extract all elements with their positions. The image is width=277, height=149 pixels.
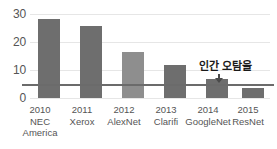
human-error-annotation-label: 인간 오탐율 bbox=[199, 61, 252, 72]
x-axis-label-2015-line2: ResNet bbox=[222, 116, 274, 128]
x-axis-label-2015: 2015 ResNet bbox=[222, 104, 274, 127]
gridline-20 bbox=[30, 42, 270, 43]
bar-2015-resnet bbox=[242, 88, 264, 98]
bar-2013-clarifi bbox=[164, 65, 186, 98]
bar-2011-xerox bbox=[80, 26, 102, 98]
y-axis-tick-label-30: 30 bbox=[2, 8, 26, 20]
bar-2010-nec-america bbox=[38, 19, 60, 98]
y-axis-tick-label-20: 20 bbox=[2, 36, 26, 48]
x-axis-label-2010-line3: America bbox=[14, 127, 66, 139]
y-axis-tick-label-10: 10 bbox=[2, 64, 26, 76]
x-axis-baseline bbox=[30, 98, 270, 99]
human-error-reference-line bbox=[22, 84, 274, 86]
x-axis-label-2015-line1: 2015 bbox=[222, 104, 274, 116]
bar-2012-alexnet bbox=[122, 52, 144, 98]
bar-chart: 30 20 10 0 인간 오탐율 2010 NEC America 2011 … bbox=[0, 0, 277, 149]
annotation-arrow-icon bbox=[215, 78, 223, 83]
y-axis-tick-label-0: 0 bbox=[2, 92, 26, 104]
gridline-30 bbox=[30, 14, 270, 15]
